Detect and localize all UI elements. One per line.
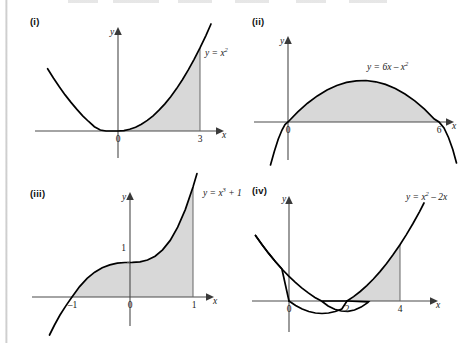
panel-i-shaded-region [118,48,200,131]
panel-iii-y-tick-label-1: 1 [114,243,126,253]
panel-ii-curve-label-main: y = 6x – x [367,62,405,72]
panel-iii-tick-0: 0 [122,300,138,310]
panel-i-x-axis-label: x [222,130,226,140]
panel-iii-tick-neg1: –1 [64,300,81,310]
panel-i-curve-label-main: y = x [205,48,225,58]
panel-iii-tick-1: 1 [186,300,202,310]
panel-iv-shaded-region [347,245,400,301]
panel-i-tick-0: 0 [110,134,126,144]
panel-iv-x-axis-label: x [436,300,440,310]
panel-iii-shaded-region [72,187,193,297]
panel-ii: (ii) y x 0 6 y = 6x – x2 [234,0,468,172]
panel-ii-x-axis-label: x [452,121,456,131]
panel-ii-curve-label-exponent: 2 [405,60,408,67]
panel-iii-curve-label-main: y = x [203,188,223,198]
panel-iv-y-axis-label: y [282,194,286,204]
panel-i-y-axis-arrow [114,27,122,35]
panel-i-curve-label: y = x2 [205,48,228,58]
panel-i-y-axis-label: y [110,27,114,37]
panel-ii-tick-0: 0 [280,125,296,135]
panel-i-plot [0,0,234,172]
panel-iii-y-axis-label: y [122,192,126,202]
panel-i: (i) y x 0 3 y = x2 [0,0,234,172]
panel-iii-plot [0,172,234,343]
panel-ii-plot [234,0,468,172]
panel-iv: (iv) y x 0 2 4 y = x2 – 2x [234,172,468,343]
panel-iv-y-axis-arrow [285,196,293,204]
panel-i-curve-label-exponent: 2 [225,46,228,53]
panel-iv-curve-label-main: y = x [406,192,426,202]
panel-iv-tick-4: 4 [392,304,408,314]
figure-root: (i) y x 0 3 y = x2 (ii) [0,0,468,343]
panel-iv-curve [256,236,290,302]
panel-ii-tick-6: 6 [431,125,447,135]
panel-iv-tick-0: 0 [281,304,297,314]
panel-ii-y-axis-arrow [284,36,292,44]
panel-ii-curve-label: y = 6x – x2 [367,62,408,72]
panel-iv-tick-2: 2 [339,304,355,314]
panel-iv-curve-label-tail: – 2x [429,192,447,202]
panel-i-tick-3: 3 [192,134,208,144]
panel-ii-y-axis-label: y [280,36,284,46]
panel-iii-y-axis-arrow [126,192,134,200]
panel-iii: (iii) y x –1 0 1 1 y = x3 + 1 [0,172,234,343]
panel-iii-x-axis-label: x [213,296,217,306]
panel-iv-curve-label: y = x2 – 2x [406,192,447,202]
